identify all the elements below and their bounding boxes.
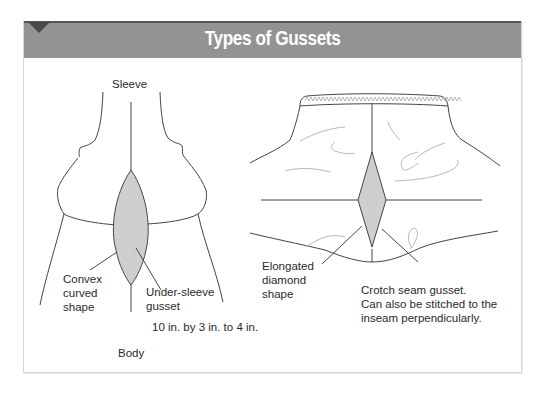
crotch-gusset-drawing	[250, 94, 500, 264]
elongated-diamond-shape-callout: Elongated diamond shape	[262, 259, 314, 301]
dimension-note: 10 in. by 3 in. to 4 in.	[152, 320, 258, 334]
crotch-seam-gusset-callout: Crotch seam gusset. Can also be stitched…	[361, 283, 497, 325]
convex-curved-shape-callout: Convex curved shape	[63, 272, 102, 314]
sleeve-label: Sleeve	[112, 77, 147, 91]
body-label: Body	[118, 346, 144, 360]
gusset-illustrations	[0, 0, 551, 396]
under-sleeve-gusset-callout: Under-sleeve gusset	[146, 285, 214, 313]
